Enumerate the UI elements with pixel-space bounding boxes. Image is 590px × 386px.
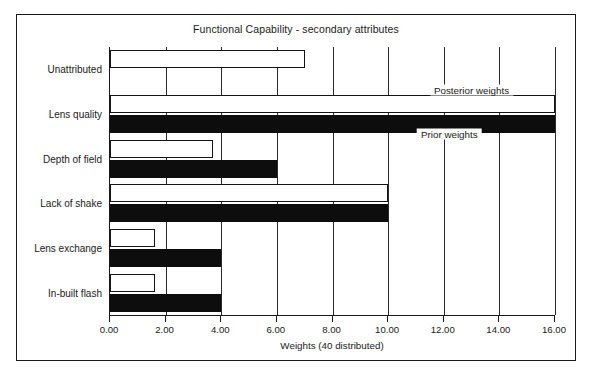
x-tick bbox=[443, 316, 444, 322]
bar-posterior bbox=[110, 184, 388, 202]
x-tick bbox=[276, 316, 277, 322]
bar-prior bbox=[110, 115, 555, 133]
bar-posterior bbox=[110, 140, 213, 158]
x-tick-label: 6.00 bbox=[251, 324, 301, 335]
category-label: Lens quality bbox=[0, 109, 110, 120]
x-tick bbox=[387, 316, 388, 322]
x-tick bbox=[220, 316, 221, 322]
x-tick-label: 12.00 bbox=[418, 324, 468, 335]
x-tick-label: 10.00 bbox=[362, 324, 412, 335]
bar-prior bbox=[110, 160, 277, 178]
bar-posterior bbox=[110, 229, 155, 247]
chart-title: Functional Capability - secondary attrib… bbox=[17, 23, 575, 35]
x-axis bbox=[109, 315, 555, 316]
x-tick-label: 2.00 bbox=[140, 324, 190, 335]
series-annotation: Posterior weights bbox=[430, 84, 513, 95]
bar-posterior bbox=[110, 95, 555, 113]
x-tick bbox=[109, 316, 110, 322]
chart-screenshot: Functional Capability - secondary attrib… bbox=[0, 0, 590, 386]
x-tick bbox=[554, 316, 555, 322]
gridline-16.00 bbox=[555, 47, 556, 315]
plot-area: UnattributedLens qualityDepth of fieldLa… bbox=[109, 47, 554, 315]
bar-posterior bbox=[110, 274, 155, 292]
gridline-8.00 bbox=[333, 47, 334, 315]
category-axis-labels: UnattributedLens qualityDepth of fieldLa… bbox=[0, 47, 110, 315]
x-tick bbox=[332, 316, 333, 322]
category-label: In-built flash bbox=[0, 287, 110, 298]
category-label: Depth of field bbox=[0, 153, 110, 164]
chart-figure-frame: Functional Capability - secondary attrib… bbox=[16, 14, 576, 361]
gridline-2.00 bbox=[166, 47, 167, 315]
x-tick-label: 4.00 bbox=[195, 324, 245, 335]
category-label: Lens exchange bbox=[0, 243, 110, 254]
x-tick-label: 16.00 bbox=[529, 324, 579, 335]
x-tick-label: 14.00 bbox=[473, 324, 523, 335]
bar-prior bbox=[110, 204, 388, 222]
gridline-6.00 bbox=[277, 47, 278, 315]
x-tick-label: 8.00 bbox=[307, 324, 357, 335]
bar-prior bbox=[110, 294, 221, 312]
gridline-10.00 bbox=[388, 47, 389, 315]
category-label: Unattributed bbox=[0, 64, 110, 75]
x-tick bbox=[165, 316, 166, 322]
x-tick bbox=[498, 316, 499, 322]
x-tick-label: 0.00 bbox=[84, 324, 134, 335]
gridline-4.00 bbox=[221, 47, 222, 315]
bar-prior bbox=[110, 249, 221, 267]
x-axis-title: Weights (40 distributed) bbox=[109, 340, 555, 351]
series-annotation: Prior weights bbox=[417, 129, 482, 140]
bar-posterior bbox=[110, 50, 305, 68]
category-label: Lack of shake bbox=[0, 198, 110, 209]
